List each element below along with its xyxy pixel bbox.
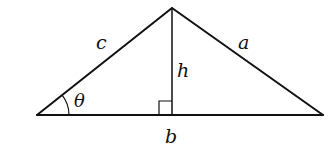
right-angle-marker <box>159 101 172 115</box>
side-a-line <box>172 8 323 115</box>
label-h: h <box>177 59 189 81</box>
triangle-diagram: c a h θ b <box>0 0 333 150</box>
label-c: c <box>96 31 107 53</box>
side-c-line <box>37 8 172 115</box>
theta-angle-arc <box>62 95 69 115</box>
triangle-figure: c a h θ b <box>0 0 333 150</box>
label-b: b <box>165 125 177 147</box>
label-theta: θ <box>74 90 85 111</box>
label-a: a <box>238 31 249 53</box>
